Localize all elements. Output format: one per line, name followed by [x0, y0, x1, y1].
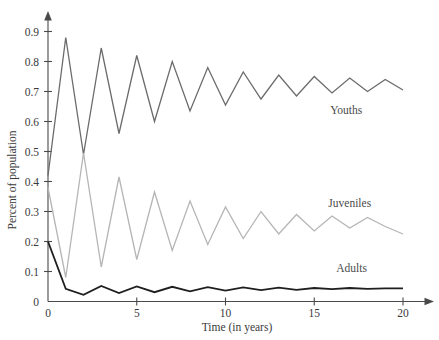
series-line-juveniles — [48, 153, 403, 278]
y-tick-label-2: 0.2 — [25, 236, 40, 248]
y-tick-label-group: 00.10.20.30.40.50.60.70.80.9 — [25, 26, 40, 308]
x-tick-label-3: 15 — [309, 307, 321, 319]
line-chart-canvas: 00.10.20.30.40.50.60.70.80.9 05101520 Yo… — [0, 0, 439, 340]
y-tick-label-5: 0.5 — [25, 146, 40, 158]
series-label-youths: Youths — [330, 104, 363, 116]
x-axis-arrowhead — [425, 298, 435, 306]
y-tick-label-8: 0.8 — [25, 56, 40, 68]
series-label-adults: Adults — [336, 262, 367, 274]
series-label-group: YouthsJuvenilesAdults — [328, 104, 371, 274]
y-tick-label-3: 0.3 — [25, 206, 40, 218]
y-tick-label-4: 0.4 — [25, 176, 40, 188]
x-axis: 05101520 — [45, 298, 434, 320]
y-axis: 00.10.20.30.40.50.60.70.80.9 — [25, 11, 52, 308]
series-group — [48, 38, 403, 295]
y-axis-title: Percent of population — [6, 130, 19, 229]
series-label-juveniles: Juveniles — [328, 197, 371, 209]
x-tick-label-0: 0 — [45, 307, 51, 319]
y-tick-label-1: 0.1 — [25, 266, 40, 278]
y-tick-label-6: 0.6 — [25, 116, 40, 128]
y-tick-label-7: 0.7 — [25, 86, 40, 98]
x-tick-label-2: 10 — [220, 307, 232, 319]
x-tick-label-4: 20 — [397, 307, 409, 319]
y-tick-label-0: 0 — [33, 296, 39, 308]
x-tick-label-group: 05101520 — [45, 307, 409, 319]
chart-figure: 00.10.20.30.40.50.60.70.80.9 05101520 Yo… — [0, 0, 439, 340]
x-axis-title: Time (in years) — [202, 321, 273, 334]
y-tick-label-9: 0.9 — [25, 26, 40, 38]
x-tick-label-1: 5 — [134, 307, 140, 319]
y-axis-arrowhead — [44, 11, 52, 21]
